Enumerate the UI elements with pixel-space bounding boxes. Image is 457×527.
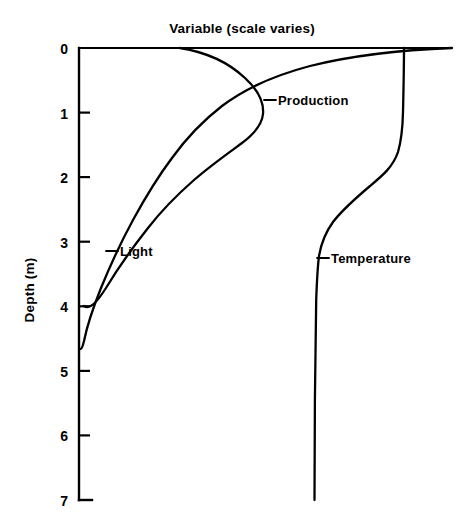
curve-temperature xyxy=(315,48,405,500)
y-tick-label-1: 1 xyxy=(60,106,68,122)
y-tick-label-0: 0 xyxy=(60,41,68,57)
y-tick-label-5: 5 xyxy=(60,364,68,380)
y-axis-title: Depth (m) xyxy=(22,258,37,323)
chart-figure: Variable (scale varies) 0 1 2 3 4 5 6 7 … xyxy=(0,0,457,527)
series-label-production: Production xyxy=(278,93,349,108)
y-tick-label-2: 2 xyxy=(60,170,68,186)
y-tick-label-7: 7 xyxy=(60,493,68,509)
chart-title: Variable (scale varies) xyxy=(169,21,315,36)
y-tick-label-3: 3 xyxy=(60,235,68,251)
series-label-light: Light xyxy=(120,244,153,259)
depth-profile-chart: Variable (scale varies) 0 1 2 3 4 5 6 7 … xyxy=(0,0,457,527)
y-tick-label-6: 6 xyxy=(60,428,68,444)
curve-production xyxy=(84,48,263,307)
curve-light xyxy=(81,48,453,349)
series-label-temperature: Temperature xyxy=(331,251,411,266)
y-tick-label-4: 4 xyxy=(60,299,68,315)
